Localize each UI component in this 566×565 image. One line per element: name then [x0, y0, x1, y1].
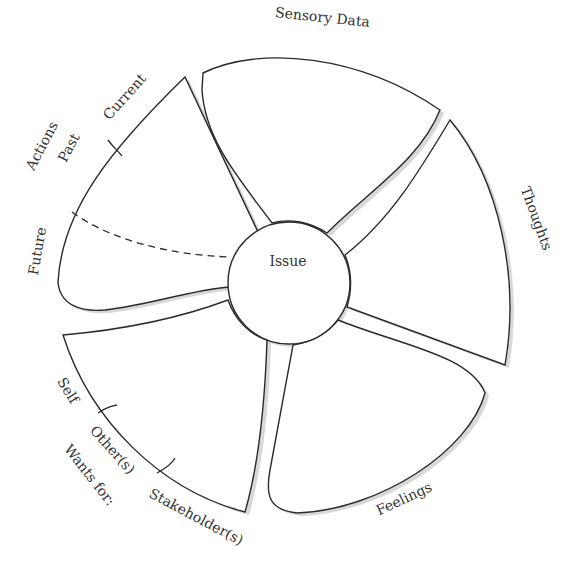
- label-actions-future: Future: [25, 226, 49, 276]
- label-actions-past: Past: [54, 130, 82, 164]
- label-thoughts: Thoughts: [518, 184, 556, 252]
- issue-wheel-diagram: Issue Sensory Data Thoughts Feelings Act…: [0, 0, 566, 565]
- issue-circle: [228, 222, 350, 344]
- feelings-shape: [268, 320, 485, 513]
- petal-feelings: [268, 320, 485, 513]
- label-actions: Actions: [22, 119, 61, 174]
- label-sensory-data: Sensory Data: [274, 4, 370, 30]
- label-wants-self: Self: [54, 374, 83, 407]
- issue-label: Issue: [269, 253, 306, 269]
- center-issue: Issue: [228, 222, 350, 344]
- label-actions-current: Current: [100, 70, 150, 123]
